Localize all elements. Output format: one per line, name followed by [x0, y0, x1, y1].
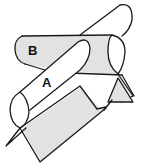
- intersecting-surfaces-diagram: B A: [0, 0, 141, 168]
- label-a: A: [42, 75, 52, 90]
- right-fold: [104, 74, 134, 110]
- upper-plane: [80, 5, 132, 36]
- label-b: B: [28, 43, 37, 58]
